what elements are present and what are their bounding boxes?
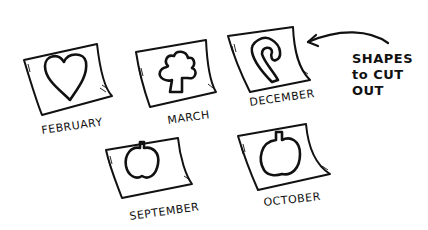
label-september: SEPTEMBER: [129, 200, 200, 223]
card-october: OCTOBER: [238, 124, 330, 209]
card-february: FEBRUARY: [24, 44, 112, 137]
label-february: FEBRUARY: [41, 116, 104, 137]
label-march: MARCH: [167, 108, 211, 127]
card-march: MARCH: [136, 40, 216, 127]
card-december: DECEMBER: [228, 27, 315, 109]
arrow-icon: [308, 32, 388, 43]
illustration: FEBRUARY MARCH DECEMBER SEPTEMBER OCTOBE…: [0, 0, 428, 230]
label-october: OCTOBER: [263, 190, 321, 209]
annotation-line-1: SHAPES: [352, 51, 413, 66]
annotation-line-2: to CUT: [352, 67, 404, 82]
annotation-line-3: OUT: [352, 83, 384, 98]
card-september: SEPTEMBER: [106, 138, 200, 223]
